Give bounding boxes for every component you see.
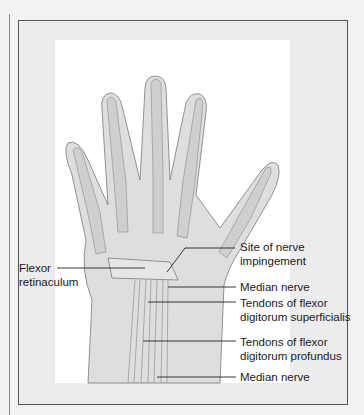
label-median-nerve-upper: Median nerve xyxy=(240,280,310,294)
label-line: Flexor xyxy=(19,261,78,275)
label-line: impingement xyxy=(240,254,306,268)
label-line: Median nerve xyxy=(240,370,310,384)
label-median-nerve-lower: Median nerve xyxy=(240,370,310,384)
label-line: Median nerve xyxy=(240,280,310,294)
label-tendons-fds: Tendons of flexor digitorum superficiali… xyxy=(240,296,351,324)
label-flexor-retinaculum: Flexor retinaculum xyxy=(19,261,78,289)
label-line: digitorum superficialis xyxy=(240,310,351,324)
label-line: digitorum profundus xyxy=(240,349,342,363)
label-line: Site of nerve xyxy=(240,240,306,254)
label-tendons-fdp: Tendons of flexor digitorum profundus xyxy=(240,335,342,363)
label-line: Tendons of flexor xyxy=(240,335,342,349)
label-site-of-nerve-impingement: Site of nerve impingement xyxy=(240,240,306,268)
label-line: Tendons of flexor xyxy=(240,296,351,310)
label-line: retinaculum xyxy=(19,275,78,289)
